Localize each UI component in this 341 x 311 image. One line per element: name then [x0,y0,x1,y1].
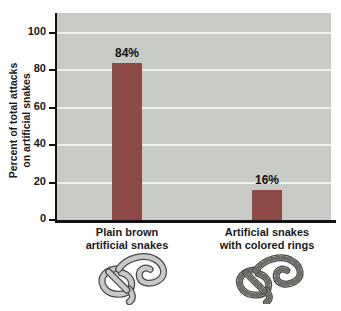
y-axis-title: Percent of total attacks on artificial s… [7,26,32,216]
y-tick-40 [49,144,57,146]
bar-colored-rings [252,190,282,220]
y-tick-100 [49,32,57,34]
y-tick-0 [49,219,57,221]
figure: Percent of total attacks on artificial s… [0,0,341,311]
y-tick-60 [49,107,57,109]
x-axis-line [55,220,336,223]
bar-value-label-plain-brown: 84% [92,46,162,60]
plain-brown-snake-icon [92,247,175,305]
y-tick-label-100: 100 [16,25,46,37]
y-axis-line [55,13,57,222]
gridline-80 [57,69,331,71]
category-label-colored-rings: Artificial snakes with colored rings [197,226,337,252]
plot-area [57,13,331,220]
y-axis-title-line1: Percent of total attacks [7,26,20,216]
y-tick-label-80: 80 [16,62,46,74]
category-label-plain-brown-line1: Plain brown [57,226,197,239]
y-axis-title-line2: on artificial snakes [19,26,32,216]
y-tick-label-0: 0 [16,212,46,224]
colored-rings-snake-icon [228,250,313,304]
y-tick-20 [49,182,57,184]
gridline-40 [57,144,331,146]
category-label-colored-rings-line1: Artificial snakes [197,226,337,239]
y-tick-label-20: 20 [16,175,46,187]
gridline-100 [57,32,331,34]
gridline-60 [57,107,331,109]
y-tick-label-40: 40 [16,137,46,149]
bar-value-label-colored-rings: 16% [232,173,302,187]
y-tick-label-60: 60 [16,100,46,112]
bar-plain-brown [112,63,142,220]
y-tick-80 [49,69,57,71]
